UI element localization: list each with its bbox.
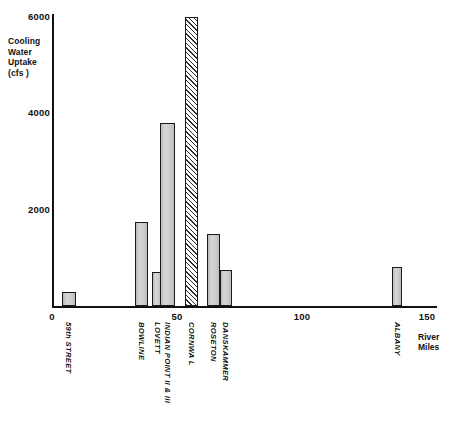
bar-bowline xyxy=(135,222,149,306)
y-tick-4000: 4000 xyxy=(0,108,50,118)
category-label-roseton: ROSETON xyxy=(209,322,217,362)
y-axis-title: Cooling Water Uptake (cfs ) xyxy=(8,36,54,78)
x-axis-title: River Miles xyxy=(418,332,458,352)
x-tick-0: 0 xyxy=(49,311,54,322)
bar-albany xyxy=(392,267,402,306)
category-label-indian-point-ii-iii: INDIAN POINT II & III xyxy=(163,322,171,403)
x-tick-50: 50 xyxy=(172,311,183,322)
y-tick-label: 2000 xyxy=(6,205,50,215)
category-label-lovett: LOVETT xyxy=(153,322,161,354)
x-tick-150: 150 xyxy=(419,311,435,322)
category-label-59th-street: 59th STREET xyxy=(64,322,72,374)
category-label-cornwa-l: CORNWA L xyxy=(187,322,195,366)
bar-59th-street xyxy=(62,292,76,306)
y-tick-label: 6000 xyxy=(6,12,50,22)
bar-indian-point-ii-iii xyxy=(160,123,175,306)
cooling-water-uptake-chart: Cooling Water Uptake (cfs ) River Miles … xyxy=(0,0,458,421)
category-label-bowline: BOWLINE xyxy=(137,322,145,360)
x-tick-100: 100 xyxy=(294,311,310,322)
bar-danskammer xyxy=(220,270,233,306)
y-tick-2000: 2000 xyxy=(0,205,50,215)
y-tick-label: 4000 xyxy=(6,108,50,118)
category-label-danskammer: DANSKAMMER xyxy=(221,322,229,381)
bar-roseton xyxy=(207,234,220,306)
category-label-albany: ALBANY xyxy=(393,322,401,356)
y-tick-6000: 6000 xyxy=(0,12,50,22)
x-axis-line xyxy=(52,306,437,308)
bar-cornwa-l xyxy=(185,17,199,306)
